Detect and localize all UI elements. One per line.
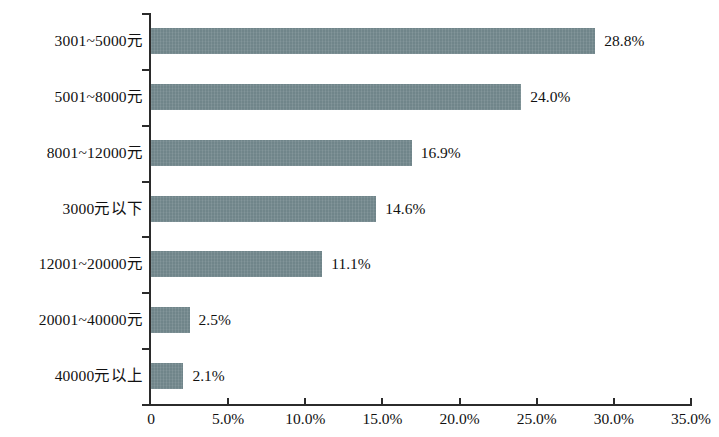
- bar-value-label: 11.1%: [331, 255, 370, 273]
- y-axis-tick: [142, 69, 150, 71]
- x-axis-tick: [227, 398, 229, 405]
- bar-value-label: 24.0%: [530, 88, 570, 106]
- x-axis-tick-label: 25.0%: [497, 409, 577, 429]
- x-axis-tick: [613, 398, 615, 405]
- x-axis-tick: [304, 398, 306, 405]
- bar-value-label: 28.8%: [604, 32, 644, 50]
- category-label: 20001~40000元: [3, 311, 143, 329]
- y-axis-tick: [142, 236, 150, 238]
- y-axis-tick: [142, 348, 150, 350]
- bar-value-label: 2.1%: [192, 367, 224, 385]
- y-axis-tick: [142, 181, 150, 183]
- bar: [151, 28, 595, 54]
- x-axis-tick-label: 0: [111, 409, 191, 429]
- y-axis-tick: [142, 125, 150, 127]
- category-label: 3000元以下: [3, 200, 143, 218]
- category-label: 3001~5000元: [3, 32, 143, 50]
- bar-value-label: 16.9%: [421, 144, 461, 162]
- y-axis-tick: [142, 292, 150, 294]
- bar: [151, 307, 190, 333]
- y-axis-tick: [142, 13, 150, 15]
- x-axis-tick: [690, 398, 692, 405]
- x-axis-tick: [381, 398, 383, 405]
- category-label: 12001~20000元: [3, 255, 143, 273]
- x-axis-tick-label: 30.0%: [574, 409, 654, 429]
- bar: [151, 196, 376, 222]
- x-axis-tick: [459, 398, 461, 405]
- x-axis-tick-label: 5.0%: [188, 409, 268, 429]
- x-axis-tick: [536, 398, 538, 405]
- x-axis-tick-label: 20.0%: [420, 409, 500, 429]
- bar-value-label: 14.6%: [385, 200, 425, 218]
- x-axis-line: [149, 404, 692, 406]
- x-axis-tick-label: 35.0%: [651, 409, 719, 429]
- category-label: 40000元以上: [3, 367, 143, 385]
- category-label: 8001~12000元: [3, 144, 143, 162]
- bar: [151, 84, 521, 110]
- horizontal-bar-chart: 3001~5000元5001~8000元8001~12000元3000元以下12…: [0, 0, 719, 437]
- y-axis-tick: [142, 404, 150, 406]
- bar: [151, 251, 322, 277]
- bar: [151, 140, 412, 166]
- bar: [151, 363, 183, 389]
- x-axis-tick-label: 10.0%: [265, 409, 345, 429]
- bar-value-label: 2.5%: [199, 311, 231, 329]
- category-label: 5001~8000元: [3, 88, 143, 106]
- x-axis-tick-label: 15.0%: [342, 409, 422, 429]
